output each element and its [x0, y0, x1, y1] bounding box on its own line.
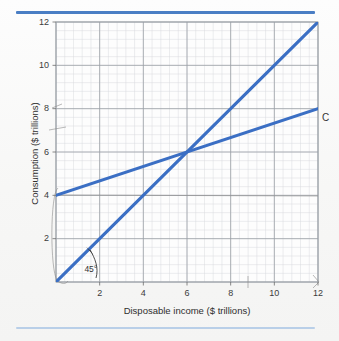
y-axis-title: Consumption ($ trillions): [29, 59, 40, 249]
chart-plot-area: [0, 0, 339, 341]
x-tick-label: 6: [177, 289, 197, 298]
x-tick-label: 8: [221, 289, 241, 298]
x-tick-label: 12: [308, 289, 328, 298]
angle-45-label: 45°: [84, 264, 97, 274]
y-tick-label: 12: [29, 18, 49, 27]
x-tick-label: 2: [90, 289, 110, 298]
x-tick-label: 10: [264, 289, 284, 298]
x-axis-title: Disposable income ($ trillions): [56, 305, 318, 316]
x-axis-tick-marks: [100, 282, 318, 286]
figure-container: 24681012 24681012 Disposable income ($ t…: [0, 0, 339, 341]
consumption-line-label: C: [322, 112, 329, 123]
x-tick-label: 4: [133, 289, 153, 298]
